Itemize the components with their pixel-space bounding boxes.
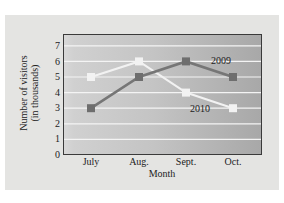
y-tick-0: 0 bbox=[50, 149, 60, 160]
y-tick-4: 4 bbox=[50, 87, 60, 98]
y-tick-7: 7 bbox=[50, 40, 60, 51]
y-axis-label-line-2: (in thousands) bbox=[29, 43, 40, 143]
y-tick-1: 1 bbox=[50, 133, 60, 144]
x-tick-sept: Sept. bbox=[166, 156, 206, 167]
y-tick-3: 3 bbox=[50, 102, 60, 113]
series-label-2009: 2009 bbox=[211, 55, 231, 66]
x-tick-oct: Oct. bbox=[213, 156, 253, 167]
x-axis-label: Month bbox=[142, 168, 182, 179]
gridlines bbox=[64, 46, 261, 140]
y-axis-label-line-1: Number of visitors bbox=[18, 43, 29, 143]
x-tick-july: July bbox=[71, 156, 111, 167]
series-label-2010: 2010 bbox=[190, 103, 210, 114]
y-tick-2: 2 bbox=[50, 118, 60, 129]
y-tick-6: 6 bbox=[50, 56, 60, 67]
y-tick-5: 5 bbox=[50, 71, 60, 82]
x-tick-aug: Aug. bbox=[119, 156, 159, 167]
y-axis-label: Number of visitors (in thousands) bbox=[18, 43, 48, 143]
